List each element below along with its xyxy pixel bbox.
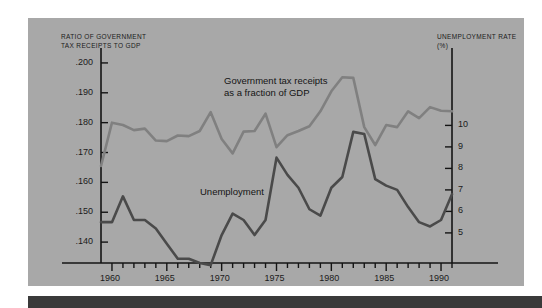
right-axis-ticks: [445, 125, 452, 232]
left-tick-label: .180: [63, 117, 93, 127]
x-tick-label: 1970: [210, 273, 230, 283]
right-tick-label: 9: [458, 141, 463, 151]
series-line-unemployment: [101, 132, 452, 265]
x-tick-label: 1985: [374, 273, 394, 283]
right-tick-label: 6: [458, 205, 463, 215]
x-tick-label: 1980: [319, 273, 339, 283]
x-axis-ticks: [112, 263, 452, 271]
x-tick-label: 1975: [265, 273, 285, 283]
left-tick-label: .200: [63, 57, 93, 67]
x-tick-label: 1965: [155, 273, 175, 283]
right-tick-label: 7: [458, 184, 463, 194]
left-tick-label: .170: [63, 147, 93, 157]
left-tick-label: .190: [63, 87, 93, 97]
right-tick-label: 5: [458, 227, 463, 237]
plot-area: [28, 18, 524, 286]
left-tick-label: .160: [63, 176, 93, 186]
footer-bar: [28, 296, 542, 308]
x-tick-label: 1960: [100, 273, 120, 283]
left-tick-label: .150: [63, 206, 93, 216]
series-line-tax-receipts: [101, 77, 452, 166]
chart-panel: RATIO OF GOVERNMENT TAX RECEIPTS TO GDP …: [28, 18, 524, 286]
left-tick-label: .140: [63, 236, 93, 246]
x-tick-label: 1990: [429, 273, 449, 283]
chart-figure: RATIO OF GOVERNMENT TAX RECEIPTS TO GDP …: [0, 0, 542, 308]
right-tick-label: 10: [458, 119, 468, 129]
right-tick-label: 8: [458, 162, 463, 172]
